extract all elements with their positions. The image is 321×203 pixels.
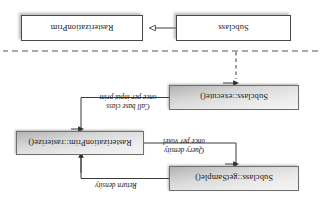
box-rasterizationprim-rasterize[interactable]: RasterizationPrim::rasterize() [16,131,144,155]
box-rasterizationprim-class[interactable]: RasterizationPrim [21,15,143,41]
box-rasterizationprim-rasterize-label: RasterizationPrim::rasterize() [28,138,132,148]
box-subclass-class-label: Subclass [218,23,249,33]
box-subclass-getsample-label: Subclass::getSample() [195,174,273,184]
box-subclass-execute-label: Subclass::execute() [200,93,268,103]
annotation-call-base-class: Call base class once per input prim [87,93,169,110]
connector-return-density [81,155,169,179]
box-rasterizationprim-class-label: RasterizationPrim [50,23,113,33]
box-subclass-execute[interactable]: Subclass::execute() [169,85,299,110]
annotation-return-density: Return density [79,180,153,189]
box-subclass-class[interactable]: Subclass [176,15,291,41]
annotation-query-density: Query density once per voxel [146,137,222,154]
box-subclass-getsample[interactable]: Subclass::getSample() [169,166,299,191]
diagram-canvas: Subclass::getSample() RasterizationPrim:… [0,0,321,203]
connector-realization-dashed [223,52,236,83]
